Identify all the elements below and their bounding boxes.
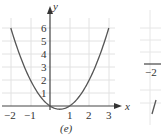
x-tick: −2 [4, 109, 16, 121]
x-axis-arrow-icon [114, 103, 122, 109]
x-axis-label: x [124, 100, 130, 112]
y-tick: 6 [41, 22, 47, 34]
y-tick: 1 [41, 87, 47, 99]
y-tick: 4 [41, 48, 47, 60]
y-axis-label: y [52, 0, 58, 12]
x-tick: 1 [67, 109, 73, 121]
y-tick: 2 [41, 74, 47, 86]
y-tick: 5 [41, 35, 47, 47]
chart-canvas: x y −2 −1 1 2 3 1 2 3 4 5 6 (e) −2 [0, 0, 161, 135]
axes [2, 12, 117, 110]
x-tick: −1 [24, 109, 36, 121]
y-tick-labels: 1 2 3 4 5 6 [41, 22, 47, 99]
adjacent-x-tick: −2 [145, 66, 157, 78]
parabola-curve [11, 28, 109, 109]
x-tick: 3 [106, 109, 112, 121]
adjacent-panel-partial: −2 [140, 10, 161, 125]
y-tick: 3 [41, 61, 47, 73]
x-tick: 2 [86, 109, 92, 121]
x-tick-labels: −2 −1 1 2 3 [4, 109, 112, 121]
adjacent-curve [152, 100, 156, 114]
grid-lines [2, 18, 115, 106]
figure-caption: (e) [60, 122, 73, 135]
